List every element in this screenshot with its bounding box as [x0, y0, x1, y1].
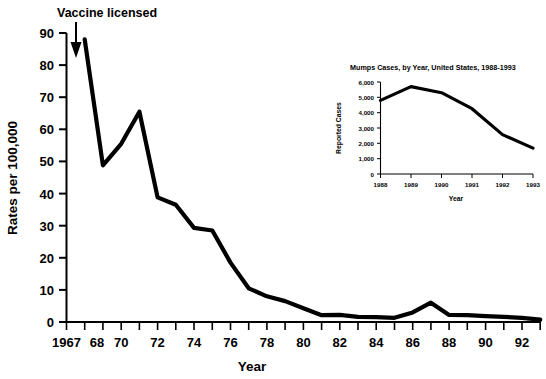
x-tick-label: 78: [260, 335, 274, 350]
inset-x-tick-label: 1991: [465, 181, 479, 188]
x-tick-label: 82: [333, 335, 347, 350]
main-data-line: [85, 39, 541, 319]
vaccine-licensed-label: Vaccine licensed: [57, 6, 157, 20]
y-tick-label: 0: [47, 315, 54, 330]
x-tick-label: 84: [369, 335, 384, 350]
y-tick-label: 90: [40, 26, 54, 41]
main-y-ticks: [59, 33, 67, 322]
inset-y-tick-label: 3,000: [359, 125, 375, 132]
inset-x-tick-label: 1992: [496, 181, 510, 188]
x-tick-label: 70: [114, 335, 128, 350]
inset-y-axis-title: Reported Cases: [335, 102, 343, 154]
main-x-ticks: [67, 322, 541, 330]
inset-x-tick-label: 1989: [404, 181, 418, 188]
inset-y-tick-labels: 6,000 5,000 4,000 3,000 2,000 1,000 0: [359, 79, 375, 178]
y-tick-label: 70: [40, 90, 54, 105]
mumps-rates-figure: 90 80 70 60 50 40 30 20 10 0: [0, 0, 546, 379]
inset-x-tick-labels: 1988 1989 1990 1991 1992 1993: [374, 181, 541, 188]
x-tick-label: 68: [90, 335, 104, 350]
y-tick-label: 20: [40, 251, 54, 266]
inset-chart: Mumps Cases, by Year, United States, 198…: [335, 63, 540, 202]
inset-data-line: [381, 87, 534, 149]
inset-y-tick-label: 6,000: [359, 79, 375, 86]
inset-y-tick-label: 0: [371, 171, 375, 178]
y-tick-label: 50: [40, 154, 54, 169]
vaccine-licensed-annotation: Vaccine licensed: [57, 6, 157, 58]
inset-x-tick-label: 1993: [526, 181, 540, 188]
inset-x-tick-label: 1990: [435, 181, 449, 188]
x-tick-label: 76: [223, 335, 237, 350]
x-tick-label: 72: [150, 335, 164, 350]
y-tick-label: 60: [40, 122, 54, 137]
x-tick-label: 90: [478, 335, 492, 350]
inset-y-tick-label: 5,000: [359, 94, 375, 101]
figure-canvas: 90 80 70 60 50 40 30 20 10 0: [0, 0, 546, 379]
y-tick-label: 30: [40, 219, 54, 234]
x-tick-label: 74: [187, 335, 202, 350]
annotation-arrow-head: [71, 42, 82, 58]
main-x-axis-title: Year: [238, 359, 267, 374]
x-tick-label: 86: [405, 335, 419, 350]
y-tick-label: 80: [40, 58, 54, 73]
inset-title: Mumps Cases, by Year, United States, 198…: [350, 63, 516, 72]
x-tick-label: 1967: [52, 335, 81, 350]
main-y-axis-title: Rates per 100,000: [5, 121, 20, 235]
x-tick-label: 88: [442, 335, 456, 350]
inset-y-tick-label: 2,000: [359, 140, 375, 147]
main-chart: 90 80 70 60 50 40 30 20 10 0: [5, 6, 541, 374]
inset-x-ticks: [381, 174, 534, 178]
main-x-tick-labels: 1967 68 70 72 74 76 78 80 82 84 86 88 90…: [52, 335, 529, 350]
x-tick-label: 92: [515, 335, 529, 350]
inset-x-tick-label: 1988: [374, 181, 388, 188]
x-tick-label: 80: [296, 335, 310, 350]
y-tick-label: 10: [40, 283, 54, 298]
inset-x-axis-title: Year: [449, 195, 464, 202]
inset-y-tick-label: 1,000: [359, 155, 375, 162]
y-tick-label: 40: [40, 187, 54, 202]
inset-y-tick-label: 4,000: [359, 109, 375, 116]
main-y-tick-labels: 90 80 70 60 50 40 30 20 10 0: [40, 26, 54, 330]
